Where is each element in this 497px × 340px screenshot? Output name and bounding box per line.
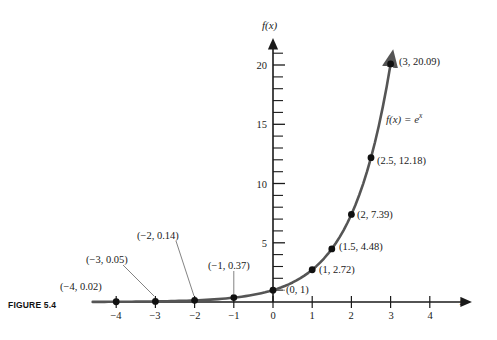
point-label--2: (−2, 0.14) [137, 230, 179, 241]
x-tick-label--1: −1 [228, 310, 239, 321]
point-label--3: (−3, 0.05) [86, 254, 128, 265]
y-axis-label: f(x) [262, 19, 277, 31]
data-point-1[interactable] [309, 266, 316, 273]
point-label-1: (1, 2.72) [319, 264, 355, 275]
x-tick-label-4: 4 [427, 310, 432, 321]
data-point-2.5[interactable] [368, 154, 375, 161]
leader-line--2 [176, 241, 194, 296]
figure-container: x f(x) −4 −3 −2 −1 0 1 2 3 4 5 10 15 20 … [0, 0, 497, 340]
x-tick-label-0: 0 [270, 310, 275, 321]
label-leader-lines [123, 241, 285, 296]
y-axis-minor-ticks [273, 53, 283, 290]
x-tick-label-3: 3 [388, 310, 393, 321]
y-tick-label-5: 5 [262, 238, 267, 249]
data-point--1[interactable] [230, 294, 237, 301]
curve-equation-base: f(x) = e [386, 113, 419, 125]
curve-equation-exponent: x [419, 111, 422, 120]
data-point-1.5[interactable] [328, 246, 335, 253]
x-axis-label: x [460, 295, 465, 307]
y-axis [273, 48, 285, 302]
x-tick-label-1: 1 [309, 310, 314, 321]
data-point--2[interactable] [191, 297, 198, 304]
x-tick-label--4: −4 [110, 310, 121, 321]
y-tick-label-20: 20 [257, 60, 268, 71]
point-label-1.5: (1.5, 4.48) [339, 241, 383, 252]
data-point-0[interactable] [270, 287, 277, 294]
point-label-3: (3, 20.09) [399, 56, 440, 67]
data-point--3[interactable] [152, 298, 159, 305]
y-tick-label-15: 15 [257, 119, 268, 130]
data-point-2[interactable] [348, 211, 355, 218]
curve-equation-annotation: f(x) = ex [386, 113, 422, 125]
point-label--1: (−1, 0.37) [208, 260, 250, 271]
leader-line--3 [123, 265, 154, 296]
x-tick-label--2: −2 [189, 310, 200, 321]
y-tick-label-10: 10 [257, 179, 268, 190]
data-point-3[interactable] [387, 61, 394, 68]
point-label-0: (0, 1) [286, 284, 309, 295]
point-label-2.5: (2.5, 12.18) [377, 155, 426, 166]
y-axis-major-ticks [273, 65, 285, 243]
x-tick-label-2: 2 [348, 310, 353, 321]
point-label-2: (2, 7.39) [357, 209, 393, 220]
x-tick-label--3: −3 [149, 310, 160, 321]
figure-caption: FIGURE 5.4 [8, 300, 56, 310]
point-label--4: (−4, 0.02) [60, 281, 102, 292]
data-point--4[interactable] [113, 298, 120, 305]
